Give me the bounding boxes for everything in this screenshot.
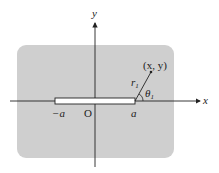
diagram-svg: y x O −a a (x, y) r1 θ1 [0, 0, 219, 173]
point-label: (x, y) [143, 59, 167, 72]
x-axis-label: x [202, 94, 208, 106]
point-marker [150, 71, 153, 74]
minus-a-label: −a [52, 107, 65, 119]
y-axis-label: y [91, 7, 97, 19]
diagram: y x O −a a (x, y) r1 θ1 [0, 0, 219, 173]
a-label: a [131, 107, 137, 119]
origin-label: O [84, 107, 92, 119]
charged-bar [55, 98, 135, 104]
